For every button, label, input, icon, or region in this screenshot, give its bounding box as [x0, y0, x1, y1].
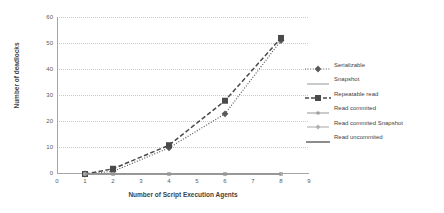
- x-tick-3: 3: [134, 178, 148, 184]
- x-axis-title: Number of Script Execution Agents: [57, 191, 309, 198]
- y-tick-40: 40: [31, 66, 53, 72]
- x-tick-2: 2: [106, 178, 120, 184]
- deadlocks-line-chart: 60 50 40 30 20 10 0 0 1 2 3 4 5 6 7 8 9 …: [0, 0, 444, 213]
- legend-key-read-commited-snapshot: [305, 118, 331, 128]
- legend-key-repeatable-read: [305, 89, 331, 99]
- legend-item-repeatable-read[interactable]: Repeatable read: [305, 87, 442, 102]
- y-tick-50: 50: [31, 40, 53, 46]
- legend: Serializable Snapshot Repeatable read: [305, 58, 442, 145]
- legend-key-read-commited: [305, 104, 331, 114]
- legend-key-snapshot: [305, 75, 331, 85]
- legend-label-read-uncommited: Read uncommited: [331, 134, 383, 141]
- x-tick-4: 4: [162, 178, 176, 184]
- x-tick-5: 5: [190, 178, 204, 184]
- legend-label-snapshot: Snapshot: [331, 76, 359, 83]
- y-tick-0: 0: [31, 170, 53, 176]
- y-tick-30: 30: [31, 92, 53, 98]
- series-repeatable-read: [82, 35, 284, 177]
- legend-key-read-uncommited: [305, 133, 331, 143]
- legend-item-snapshot[interactable]: Snapshot: [305, 73, 442, 88]
- y-tick-60: 60: [31, 14, 53, 20]
- legend-label-repeatable-read: Repeatable read: [331, 91, 378, 98]
- y-tick-10: 10: [31, 144, 53, 150]
- series-layer: [57, 17, 309, 174]
- x-tick-1: 1: [78, 178, 92, 184]
- legend-item-read-uncommited[interactable]: Read uncommited: [305, 131, 442, 146]
- legend-item-serializable[interactable]: Serializable: [305, 58, 442, 73]
- legend-item-read-commited[interactable]: Read commited: [305, 102, 442, 117]
- y-tick-20: 20: [31, 118, 53, 124]
- legend-label-serializable: Serializable: [331, 62, 365, 69]
- x-tick-6: 6: [218, 178, 232, 184]
- x-tick-8: 8: [274, 178, 288, 184]
- legend-label-read-commited-snapshot: Read commited Snapshot: [331, 120, 403, 127]
- legend-label-read-commited: Read commited: [331, 105, 376, 112]
- x-tick-9: 9: [302, 178, 316, 184]
- x-tick-7: 7: [246, 178, 260, 184]
- series-serializable: [82, 37, 285, 177]
- legend-item-read-commited-snapshot[interactable]: Read commited Snapshot: [305, 116, 442, 131]
- legend-key-serializable: [305, 60, 331, 70]
- y-axis-title: Number of deadlocks: [13, 16, 20, 136]
- x-tick-0: 0: [50, 178, 64, 184]
